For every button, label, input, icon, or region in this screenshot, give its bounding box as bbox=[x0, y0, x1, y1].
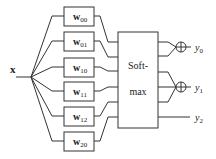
softmax-to-sum-connections bbox=[158, 42, 190, 117]
input-label: x bbox=[10, 63, 16, 75]
sum-node-1 bbox=[176, 82, 191, 92]
softmax-network-diagram: x w00 w01 w10 w11 w12 w20 bbox=[0, 0, 216, 159]
output-y2: y2 bbox=[194, 112, 203, 125]
softmax-box: Soft- max bbox=[118, 32, 158, 128]
weight-box-w12: w12 bbox=[64, 107, 94, 126]
weight-to-softmax-connections bbox=[94, 16, 118, 141]
weight-box-w10: w10 bbox=[64, 58, 94, 77]
svg-text:max: max bbox=[129, 86, 146, 97]
weight-box-w20: w20 bbox=[64, 132, 94, 151]
fan-out-connections bbox=[31, 16, 64, 141]
weight-box-w00: w00 bbox=[64, 7, 94, 26]
output-y1: y1 bbox=[194, 82, 203, 95]
svg-text:Soft-: Soft- bbox=[128, 60, 148, 71]
weight-box-w11: w11 bbox=[64, 82, 94, 101]
sum-node-0 bbox=[176, 42, 191, 52]
output-y0: y0 bbox=[194, 42, 203, 55]
weight-box-w01: w01 bbox=[64, 32, 94, 51]
